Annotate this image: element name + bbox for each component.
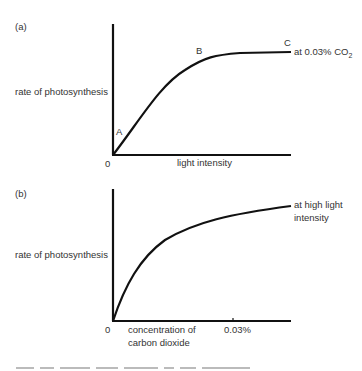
panel-a-curve — [113, 52, 291, 155]
panel-a-origin: 0 — [105, 158, 110, 170]
panel-b-curve-label-line2: intensity — [294, 212, 329, 224]
panel-b-tick-label: 0.03% — [224, 324, 251, 336]
panel-b-label: (b) — [15, 188, 27, 200]
panel-b-curve-label-line1: at high light — [294, 199, 343, 211]
panel-b-curve — [113, 206, 291, 321]
panel-a-label: (a) — [15, 21, 27, 33]
truncated-caption — [16, 367, 276, 371]
panel-b-y-label: rate of photosynthesis — [15, 249, 108, 261]
point-c-label: C — [284, 37, 291, 49]
panel-a-x-label: light intensity — [177, 157, 232, 169]
panel-b-x-label-line2: carbon dioxide — [128, 337, 190, 349]
panel-a-curve-label: at 0.03% CO2 — [294, 46, 352, 62]
point-b-label: B — [196, 45, 202, 57]
panel-a-y-label: rate of photosynthesis — [15, 86, 108, 98]
point-a-label: A — [116, 126, 122, 138]
panel-b-origin: 0 — [105, 324, 110, 336]
panel-b-x-label-line1: concentration of — [128, 324, 196, 336]
